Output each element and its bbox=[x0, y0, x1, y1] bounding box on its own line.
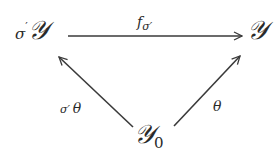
calligraphic-y: 𝒴 bbox=[247, 15, 267, 45]
calligraphic-y: 𝒴 bbox=[28, 15, 48, 45]
node-y: 𝒴 bbox=[247, 17, 267, 43]
label-sigma-prime: σ′ bbox=[60, 103, 70, 116]
label-theta: θ bbox=[73, 100, 81, 116]
node-sigma-prime-y: σ′𝒴 bbox=[15, 17, 48, 43]
label-f-subscript: σ′ bbox=[142, 20, 152, 33]
label-f-sigma-prime: fσ′ bbox=[137, 15, 152, 32]
arrow-right bbox=[174, 56, 240, 126]
calligraphic-y: 𝒴 bbox=[134, 119, 154, 149]
label-sigma-prime-theta: σ′ θ bbox=[60, 101, 81, 115]
label-theta-right: θ bbox=[213, 99, 221, 113]
arrow-left bbox=[59, 57, 133, 127]
node-y0: 𝒴0 bbox=[134, 121, 164, 151]
label-theta: θ bbox=[213, 98, 221, 114]
subscript-zero: 0 bbox=[154, 134, 164, 152]
sigma-prefix: σ bbox=[15, 25, 25, 43]
